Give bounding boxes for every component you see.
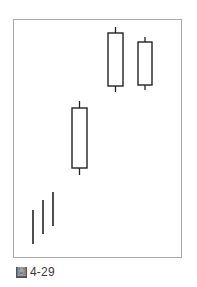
figure-caption: 圖 4-29 [16,265,55,279]
candlesticks [72,27,152,175]
candlestick-chart [0,0,197,287]
price-bars [33,192,53,244]
candle-6 [138,37,152,90]
figure-number: 4-29 [30,265,55,279]
candle-5 [108,27,123,92]
candle-body [138,42,152,85]
candle-body [108,33,123,86]
figure-label-mark: 圖 [16,267,27,278]
candle-4 [72,101,87,175]
candle-body [72,108,87,168]
